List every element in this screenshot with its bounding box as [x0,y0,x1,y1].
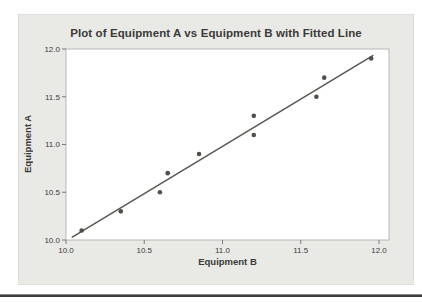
scatter-plot-canvas: 10.010.511.011.512.010.010.511.011.512.0 [19,15,415,286]
y-tick-label: 12.0 [44,45,60,54]
data-point [165,171,170,176]
data-point [252,133,257,138]
x-tick-label: 11.0 [215,246,231,255]
x-tick-label: 10.5 [136,246,152,255]
chart-figure-panel: Plot of Equipment A vs Equipment B with … [18,14,414,285]
y-tick-label: 10.0 [44,236,60,245]
x-tick-label: 11.5 [293,246,309,255]
screenshot-page: Plot of Equipment A vs Equipment B with … [0,0,422,303]
data-point [79,228,84,233]
y-tick-label: 10.5 [44,188,60,197]
data-point [158,190,163,195]
y-tick-label: 11.5 [45,93,61,102]
data-point [369,56,374,61]
y-tick-label: 11.0 [45,140,61,149]
x-tick-label: 12.0 [371,246,387,255]
data-point [197,152,202,157]
data-point [314,94,319,99]
horizontal-divider [0,294,422,297]
data-point [118,209,123,214]
data-point [252,114,257,119]
data-point [322,75,327,80]
x-axis-label: Equipment B [66,256,389,267]
x-tick-label: 10.0 [58,246,74,255]
y-axis-label: Equipment A [22,91,36,197]
